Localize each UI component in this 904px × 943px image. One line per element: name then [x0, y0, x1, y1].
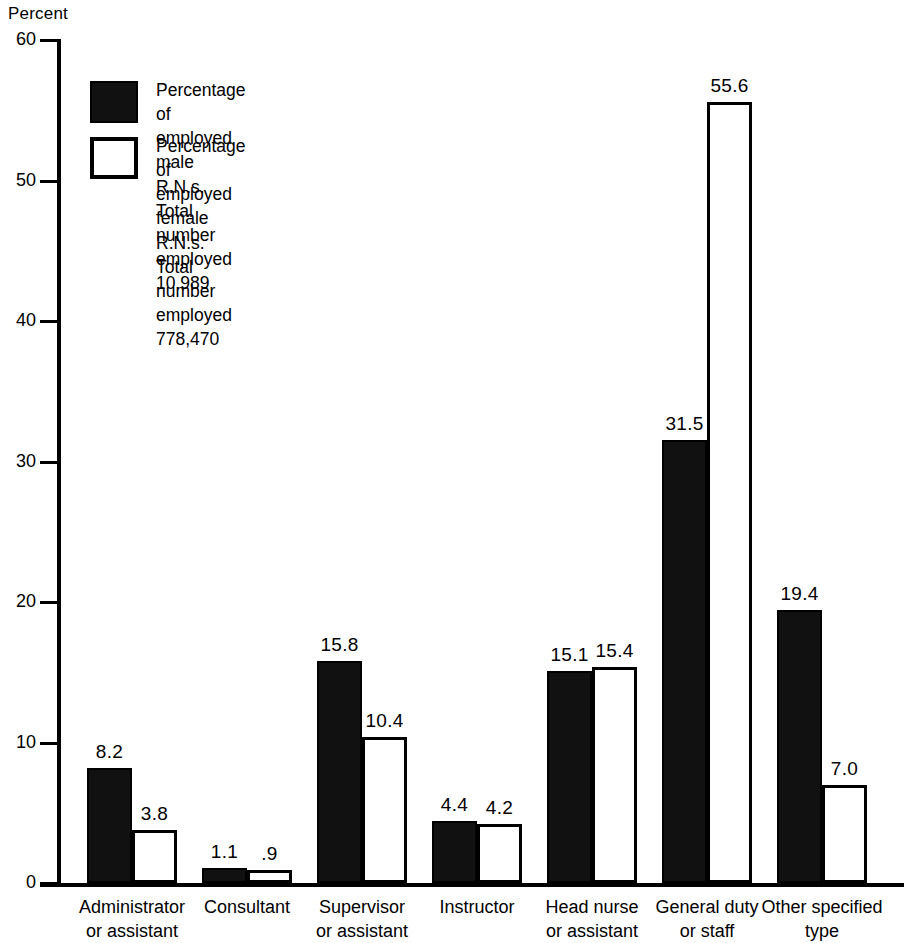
- y-axis-line: [57, 40, 61, 887]
- category-label: Instructor: [415, 896, 539, 920]
- y-tick-label: 50: [0, 170, 36, 191]
- bar-male: [777, 610, 822, 883]
- y-tick-mark: [40, 882, 61, 885]
- y-tick-mark: [40, 320, 61, 323]
- bar-value-label: 8.2: [74, 741, 145, 763]
- bar-female: [592, 667, 637, 883]
- bar-female: [477, 824, 522, 883]
- legend-label-female: Percentage of employed female R.N.s. Tot…: [156, 134, 246, 351]
- bar-male: [202, 868, 247, 883]
- category-label: Administrator or assistant: [70, 896, 194, 943]
- y-tick-label: 20: [0, 591, 36, 612]
- bar-value-label: .9: [234, 843, 305, 865]
- bar-female: [707, 102, 752, 883]
- bar-value-label: 7.0: [809, 758, 880, 780]
- category-label: Consultant: [185, 896, 309, 920]
- y-tick-mark: [40, 601, 61, 604]
- bar-value-label: 3.8: [119, 803, 190, 825]
- category-label: Supervisor or assistant: [300, 896, 424, 943]
- bar-value-label: 4.2: [464, 797, 535, 819]
- category-label: Other specified type: [760, 896, 884, 943]
- bar-value-label: 55.6: [694, 75, 765, 97]
- legend-swatch-female-icon: [90, 137, 138, 179]
- bar-value-label: 15.8: [304, 634, 375, 656]
- bar-female: [822, 785, 867, 883]
- bar-male: [317, 661, 362, 883]
- chart-page: Percent 6050403020100 8.23.81.1.915.810.…: [0, 0, 904, 943]
- bar-female: [362, 737, 407, 883]
- bar-male: [547, 671, 592, 883]
- y-tick-label: 40: [0, 310, 36, 331]
- bar-value-label: 19.4: [764, 583, 835, 605]
- bar-male: [87, 768, 132, 883]
- y-tick-label: 30: [0, 451, 36, 472]
- bar-male: [662, 440, 707, 883]
- y-tick-mark: [40, 742, 61, 745]
- legend-item-female: Percentage of employed female R.N.s. Tot…: [90, 134, 246, 351]
- y-tick-mark: [40, 180, 61, 183]
- bar-value-label: 10.4: [349, 710, 420, 732]
- y-tick-label: 60: [0, 29, 36, 50]
- bar-female: [247, 870, 292, 883]
- bar-value-label: 15.4: [579, 640, 650, 662]
- y-tick-label: 10: [0, 732, 36, 753]
- category-label: General duty or staff: [645, 896, 769, 943]
- category-label: Head nurse or assistant: [530, 896, 654, 943]
- y-tick-mark: [40, 39, 61, 42]
- x-axis-line: [40, 883, 904, 887]
- bar-male: [432, 821, 477, 883]
- y-tick-mark: [40, 461, 61, 464]
- y-tick-label: 0: [0, 872, 36, 893]
- bar-female: [132, 830, 177, 883]
- legend-swatch-male-icon: [90, 81, 138, 123]
